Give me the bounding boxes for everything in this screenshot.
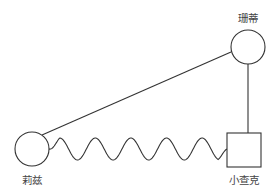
genogram-diagram: 珊蒂 莉兹 小查克 bbox=[0, 0, 276, 195]
edge-liz-sandy bbox=[42, 52, 231, 135]
node-little-chuck[interactable]: 小查克 bbox=[227, 133, 261, 186]
edge-liz-little-chuck-wavy bbox=[49, 138, 227, 160]
node-sandy[interactable]: 珊蒂 bbox=[231, 12, 265, 64]
female-circle-icon bbox=[15, 132, 49, 166]
female-circle-icon bbox=[231, 30, 265, 64]
node-label-sandy: 珊蒂 bbox=[238, 12, 258, 24]
node-liz[interactable]: 莉兹 bbox=[15, 132, 49, 186]
node-label-liz: 莉兹 bbox=[22, 174, 42, 186]
male-square-icon bbox=[227, 133, 261, 167]
node-label-little-chuck: 小查克 bbox=[229, 174, 260, 186]
